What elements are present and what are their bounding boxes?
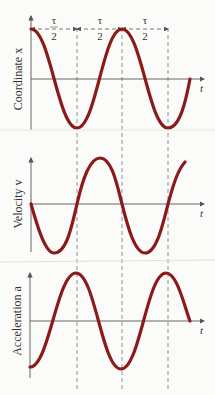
svg-text:t: t <box>200 207 204 219</box>
coordinate-curve <box>31 29 190 128</box>
svg-text:Acceleration a: Acceleration a <box>10 286 24 356</box>
svg-text:2: 2 <box>142 30 148 42</box>
tau-label-1: τ <box>52 14 57 26</box>
svg-text:2: 2 <box>97 30 103 42</box>
shm-graphs: τ 2 τ 2 τ 2 t Coordinate x t Velocity v … <box>0 0 215 395</box>
svg-text:2: 2 <box>51 30 57 42</box>
velocity-curve <box>31 158 185 253</box>
svg-text:t: t <box>200 324 204 336</box>
velocity-panel: t Velocity v <box>11 158 204 253</box>
shm-figure: τ 2 τ 2 τ 2 t Coordinate x t Velocity v … <box>0 0 215 395</box>
tau-label-2: τ <box>98 14 103 26</box>
tau-label-3: τ <box>143 14 148 26</box>
coordinate-panel: t Coordinate x <box>11 16 204 130</box>
svg-text:t: t <box>200 82 204 94</box>
svg-text:Coordinate x: Coordinate x <box>11 48 25 110</box>
acceleration-panel: t Acceleration a <box>10 273 204 378</box>
svg-text:Velocity v: Velocity v <box>11 180 25 229</box>
